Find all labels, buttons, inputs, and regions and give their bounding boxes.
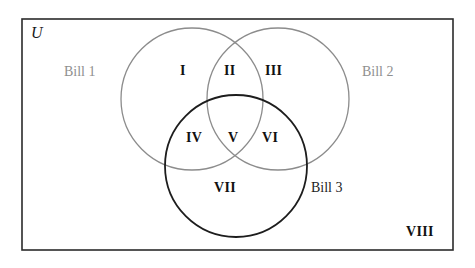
- region-label-vi: VI: [262, 131, 278, 145]
- set-label-bill-1: Bill 1: [64, 65, 96, 79]
- set-label-bill-3: Bill 3: [311, 181, 343, 195]
- venn-diagram-canvas: U Bill 1 Bill 2 Bill 3 I II III IV V VI …: [0, 0, 475, 268]
- set-label-bill-2: Bill 2: [362, 65, 394, 79]
- universe-label: U: [31, 25, 43, 41]
- region-label-i: I: [180, 64, 186, 78]
- region-label-v: V: [228, 131, 238, 145]
- region-label-iv: IV: [186, 131, 202, 145]
- region-label-ii: II: [224, 64, 236, 78]
- region-label-vii: VII: [214, 181, 236, 195]
- set-circle-bill-3: [165, 95, 307, 237]
- region-label-iii: III: [265, 64, 282, 78]
- region-label-viii: VIII: [406, 225, 434, 239]
- set-circle-bill-2: [207, 28, 349, 170]
- set-circle-bill-1: [121, 28, 263, 170]
